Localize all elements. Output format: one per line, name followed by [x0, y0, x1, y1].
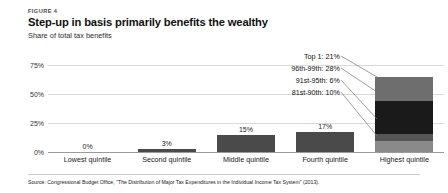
- bar-value-label: 3%: [127, 140, 206, 147]
- bar-second-quintile[interactable]: [138, 149, 196, 152]
- y-axis-tick-label: 50%: [30, 91, 44, 98]
- bar-fill: [138, 149, 196, 152]
- callout-81st-90th: 81st-90th: 10%: [180, 88, 340, 97]
- bar-group: 17%Fourth quintile: [286, 60, 365, 152]
- figure-container: FIGURE 4 Step-up in basis primarily bene…: [0, 0, 448, 193]
- footer-divider: [28, 174, 420, 175]
- bar-middle-quintile[interactable]: [217, 135, 275, 152]
- callout-91st-95th: 91st-95th: 6%: [180, 76, 340, 85]
- source-note: Source: Congressional Budget Office, "Th…: [28, 179, 319, 185]
- y-axis-tick-label: 75%: [30, 62, 44, 69]
- bar-group: 3%Second quintile: [127, 60, 206, 152]
- bar-segment-81st-90th[interactable]: [375, 141, 433, 153]
- bar-highest-quintile[interactable]: [375, 77, 433, 152]
- x-axis-category-label: Highest quintile: [341, 155, 448, 164]
- bar-segment-91st-95th[interactable]: [375, 134, 433, 141]
- bar-fill: [296, 132, 354, 152]
- bar-value-label: 15%: [206, 126, 285, 133]
- bar-value-label: 0%: [48, 143, 127, 150]
- bar-segment-96th-99th[interactable]: [375, 101, 433, 133]
- figure-number: FIGURE 4: [28, 8, 57, 14]
- callout-top-1: Top 1: 21%: [180, 52, 340, 61]
- figure-title: Step-up in basis primarily benefits the …: [28, 16, 268, 28]
- bar-fill: [217, 135, 275, 152]
- bar-segment-top-1[interactable]: [375, 77, 433, 101]
- y-axis-tick-label: 0%: [34, 148, 44, 155]
- bar-value-label: 17%: [286, 123, 365, 130]
- bar-group: 0%Lowest quintile: [48, 60, 127, 152]
- bar-group: 15%Middle quintile: [206, 60, 285, 152]
- bar-group: Highest quintile: [365, 60, 444, 152]
- y-axis-tick-label: 25%: [30, 119, 44, 126]
- bar-fourth-quintile[interactable]: [296, 132, 354, 152]
- figure-subtitle: Share of total tax benefits: [28, 31, 112, 40]
- chart-plot-area: 0%25%50%75%0%Lowest quintile3%Second qui…: [48, 60, 444, 152]
- callout-96th-99th: 96th-99th: 28%: [180, 64, 340, 73]
